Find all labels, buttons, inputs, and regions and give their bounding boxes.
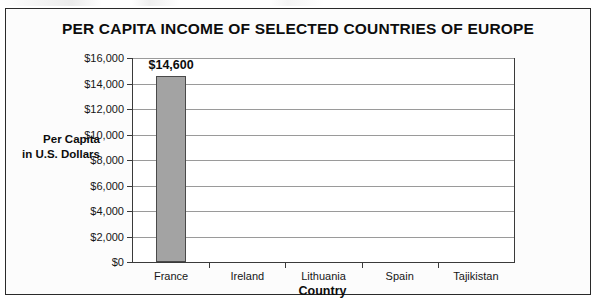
gridline: [133, 109, 514, 110]
chart-title: PER CAPITA INCOME OF SELECTED COUNTRIES …: [6, 20, 590, 38]
gridline: [133, 84, 514, 85]
gridline: [133, 135, 514, 136]
y-axis-tick: [127, 84, 133, 85]
y-axis-tick-label: $8,000: [90, 154, 124, 166]
y-axis-tick: [127, 58, 133, 59]
y-axis-tick: [127, 262, 133, 263]
x-axis-tick: [438, 262, 439, 268]
gridline: [133, 211, 514, 212]
x-axis-tick: [285, 262, 286, 268]
x-axis-tick: [362, 262, 363, 268]
y-axis-tick-label: $16,000: [84, 52, 124, 64]
gridline: [133, 186, 514, 187]
gridline: [133, 237, 514, 238]
bar-value-label: $14,600: [149, 58, 194, 72]
y-axis-tick-label: $14,000: [84, 78, 124, 90]
x-axis-tick: [209, 262, 210, 268]
y-axis-tick: [127, 160, 133, 161]
y-axis-tick-label: $6,000: [90, 180, 124, 192]
y-axis-tick-label: $0: [112, 256, 124, 268]
y-axis-tick: [127, 211, 133, 212]
plot-area: $0$2,000$4,000$6,000$8,000$10,000$12,000…: [132, 58, 515, 263]
x-axis-title: Country: [132, 284, 513, 298]
gridline: [133, 160, 514, 161]
y-axis-tick: [127, 237, 133, 238]
y-axis-title-line-2: in U.S. Dollars: [14, 147, 100, 162]
y-axis-tick: [127, 186, 133, 187]
x-axis-tick-label: Spain: [386, 270, 414, 282]
x-axis-tick-label: Ireland: [230, 270, 264, 282]
scan-artifact: [0, 0, 599, 6]
figure-frame: PER CAPITA INCOME OF SELECTED COUNTRIES …: [5, 8, 591, 295]
y-axis-tick: [127, 135, 133, 136]
y-axis-tick-label: $2,000: [90, 231, 124, 243]
bar: [156, 76, 186, 262]
y-axis-tick-label: $10,000: [84, 129, 124, 141]
x-axis-tick-label: France: [154, 270, 188, 282]
x-axis-tick-label: Tajikistan: [453, 270, 498, 282]
y-axis-tick-label: $12,000: [84, 103, 124, 115]
y-axis-tick-label: $4,000: [90, 205, 124, 217]
y-axis-tick: [127, 109, 133, 110]
x-axis-tick-label: Lithuania: [301, 270, 346, 282]
